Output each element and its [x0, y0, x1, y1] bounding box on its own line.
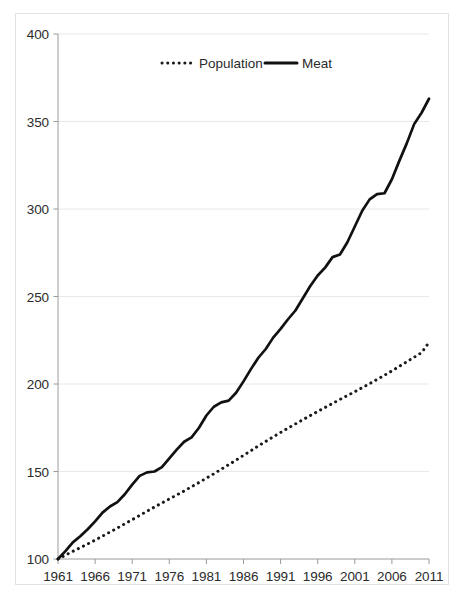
y-tick-label-300: 300	[16, 202, 49, 217]
x-tick-label-1981: 1981	[192, 569, 222, 584]
chart-canvas	[16, 14, 450, 586]
x-tick-label-1961: 1961	[43, 569, 73, 584]
x-tick-label-2006: 2006	[377, 569, 407, 584]
series-line-meat	[58, 99, 429, 559]
legend-label-meat: Meat	[302, 56, 332, 71]
x-tick-label-2001: 2001	[340, 569, 370, 584]
chart-figure: Population Meat 400 350 300 250 200 150 …	[0, 0, 464, 614]
x-tick-label-1986: 1986	[229, 569, 259, 584]
y-tick-label-350: 350	[16, 114, 49, 129]
x-tick-label-1976: 1976	[154, 569, 184, 584]
series-line-population	[58, 342, 429, 559]
x-axis	[58, 559, 429, 564]
chart-frame: Population Meat 400 350 300 250 200 150 …	[15, 13, 449, 585]
x-tick-label-1996: 1996	[303, 569, 333, 584]
x-tick-label-1966: 1966	[80, 569, 110, 584]
y-tick-label-150: 150	[16, 464, 49, 479]
y-tick-label-400: 400	[16, 27, 49, 42]
x-tick-label-1991: 1991	[266, 569, 296, 584]
y-axis	[54, 34, 59, 559]
x-tick-label-2011: 2011	[415, 569, 444, 584]
y-tick-label-200: 200	[16, 377, 49, 392]
y-tick-label-250: 250	[16, 289, 49, 304]
gridlines	[58, 34, 429, 472]
x-tick-label-1971: 1971	[117, 569, 147, 584]
legend-label-population: Population	[199, 56, 263, 71]
y-tick-label-100: 100	[16, 552, 49, 567]
